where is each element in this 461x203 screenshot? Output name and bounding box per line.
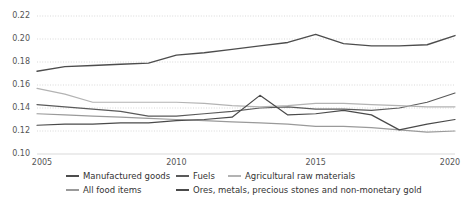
series-line-4 (37, 95, 455, 130)
legend-label: Agricultural raw materials (245, 171, 355, 181)
x-tick-label: 2010 (156, 158, 196, 167)
legend-swatch-icon (66, 189, 79, 191)
legend-item[interactable]: Ores, metals, precious stones and non-mo… (176, 182, 422, 197)
x-tick-label: 2020 (430, 158, 461, 167)
x-tick-label: 2015 (296, 158, 336, 167)
legend-label: Fuels (193, 171, 215, 181)
series-line-0 (37, 34, 455, 71)
legend-item[interactable]: All food items (66, 182, 141, 197)
series-lines (37, 34, 455, 132)
legend-swatch-icon (176, 175, 189, 177)
series-line-3 (37, 114, 455, 132)
chart-legend: Manufactured goodsFuelsAgricultural raw … (0, 168, 461, 203)
legend-swatch-icon (228, 175, 241, 177)
y-tick-label: 0.20 (4, 34, 30, 43)
y-tick-label: 0.16 (4, 80, 30, 89)
legend-row: All food itemsOres, metals, precious sto… (0, 182, 461, 197)
legend-label: Manufactured goods (83, 171, 170, 181)
legend-label: All food items (83, 185, 141, 195)
y-tick-label: 0.18 (4, 57, 30, 66)
series-line-1 (37, 93, 455, 116)
y-tick-label: 0.22 (4, 11, 30, 20)
series-line-2 (37, 88, 455, 106)
legend-swatch-icon (66, 175, 79, 177)
legend-label: Ores, metals, precious stones and non-mo… (193, 185, 422, 195)
legend-item[interactable]: Agricultural raw materials (228, 168, 355, 183)
y-tick-label: 0.14 (4, 103, 30, 112)
legend-swatch-icon (176, 189, 189, 191)
y-tick-label: 0.12 (4, 126, 30, 135)
legend-item[interactable]: Manufactured goods (66, 168, 170, 183)
gridlines (37, 16, 455, 154)
line-chart: 0.220.200.180.160.140.120.10 20052010201… (0, 0, 461, 203)
x-tick-label: 2005 (22, 158, 62, 167)
y-tick-label: 0.10 (4, 149, 30, 158)
legend-row: Manufactured goodsFuelsAgricultural raw … (0, 168, 461, 183)
legend-item[interactable]: Fuels (176, 168, 215, 183)
